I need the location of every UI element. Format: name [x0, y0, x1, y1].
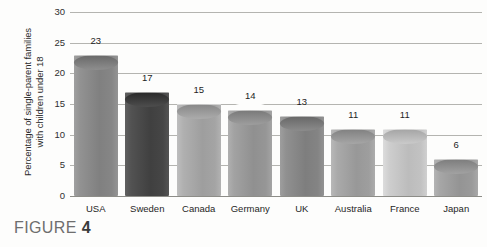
bar-body	[125, 92, 169, 196]
bar-top-cap-rim	[125, 85, 169, 100]
value-label-canada: 15	[193, 85, 204, 95]
bar-sweden	[125, 92, 169, 196]
gridline-20: 20	[70, 73, 482, 74]
bar-uk	[280, 116, 324, 196]
bar-australia	[331, 129, 375, 196]
value-label-germany: 14	[245, 91, 256, 101]
y-axis-tick-label-30: 30	[54, 7, 65, 17]
plot-area: 051015202530 231715141311116	[70, 12, 482, 196]
y-axis-title-line-1: Percentage of single-parent families	[22, 28, 35, 176]
figure-container: Percentage of single-parent families wit…	[0, 0, 487, 247]
value-label-france: 11	[400, 109, 410, 119]
y-axis-tick-label-0: 0	[60, 191, 65, 201]
x-axis-label-australia: Australia	[335, 204, 372, 214]
x-axis-label-canada: Canada	[182, 204, 215, 214]
bar-body	[74, 55, 118, 196]
value-label-sweden: 17	[142, 72, 153, 82]
bar-japan	[434, 159, 478, 196]
gridline-25: 25	[70, 43, 482, 44]
bar-top-cap-rim	[74, 48, 118, 63]
x-axis-label-usa: USA	[86, 204, 106, 214]
value-label-usa: 23	[90, 35, 101, 45]
y-axis-title: Percentage of single-parent families wit…	[14, 4, 54, 200]
bar-germany	[228, 110, 272, 196]
x-axis-label-germany: Germany	[231, 204, 270, 214]
bar-canada	[177, 104, 221, 196]
bar-top-cap-rim	[331, 122, 375, 137]
y-axis-tick-label-20: 20	[54, 69, 65, 79]
y-axis-title-line-2: with children under 18	[34, 57, 47, 148]
bar-top-cap-rim	[177, 97, 221, 112]
gridline-0: 0	[70, 196, 482, 197]
figure-caption-number: 4	[82, 219, 91, 236]
figure-caption-prefix: FIGURE	[14, 219, 77, 236]
x-axis-label-france: France	[390, 204, 420, 214]
bar-usa	[74, 55, 118, 196]
x-axis-label-uk: UK	[295, 204, 308, 214]
value-label-uk: 13	[296, 97, 307, 107]
x-axis-label-japan: Japan	[443, 204, 469, 214]
y-axis-tick-label-25: 25	[54, 38, 65, 48]
figure-caption: FIGURE 4	[14, 219, 91, 237]
x-axis-label-sweden: Sweden	[130, 204, 164, 214]
bar-france	[383, 129, 427, 196]
gridline-30: 30	[70, 12, 482, 13]
value-label-australia: 11	[348, 109, 358, 119]
y-axis-tick-label-10: 10	[54, 130, 65, 140]
value-label-japan: 6	[454, 140, 459, 150]
y-axis-tick-label-15: 15	[54, 99, 65, 109]
y-axis-tick-label-5: 5	[60, 161, 65, 171]
bar-top-cap-rim	[383, 122, 427, 137]
